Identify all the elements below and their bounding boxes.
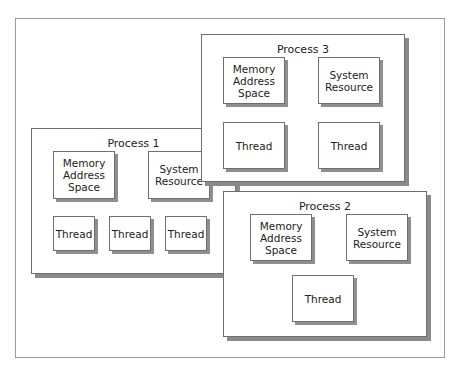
label: Resource — [353, 238, 401, 250]
label: Thread — [56, 228, 93, 240]
label: Address — [233, 75, 276, 87]
process-3-thread-2: Thread — [318, 122, 380, 169]
label: Thread — [112, 228, 149, 240]
process-3-thread-1: Thread — [223, 122, 285, 169]
process-3-title: Process 3 — [202, 43, 404, 56]
process-1-thread-3: Thread — [165, 216, 207, 251]
label: Memory — [260, 220, 303, 232]
label: System — [325, 69, 373, 81]
label: Space — [260, 244, 303, 256]
label: Resource — [155, 175, 203, 187]
process-1-memory-address-space: MemoryAddressSpace — [53, 151, 115, 199]
label: Memory — [63, 157, 106, 169]
label: Memory — [233, 63, 276, 75]
process-3-memory-address-space: MemoryAddressSpace — [223, 57, 285, 104]
label: Address — [63, 169, 106, 181]
label: Space — [233, 87, 276, 99]
process-2-memory-address-space: MemoryAddressSpace — [250, 214, 312, 261]
label: Resource — [325, 81, 373, 93]
label: Thread — [305, 293, 342, 305]
label: Thread — [168, 228, 205, 240]
process-1-thread-1: Thread — [53, 216, 95, 251]
label: Thread — [331, 140, 368, 152]
process-2-system-resource: SystemResource — [346, 214, 408, 261]
label: Thread — [236, 140, 273, 152]
label: System — [353, 226, 401, 238]
process-2-title: Process 2 — [224, 200, 426, 213]
label: Space — [63, 181, 106, 193]
label: System — [155, 163, 203, 175]
process-1-thread-2: Thread — [109, 216, 151, 251]
process-3-system-resource: SystemResource — [318, 57, 380, 104]
label: Address — [260, 232, 303, 244]
process-2-thread-1: Thread — [292, 275, 354, 322]
